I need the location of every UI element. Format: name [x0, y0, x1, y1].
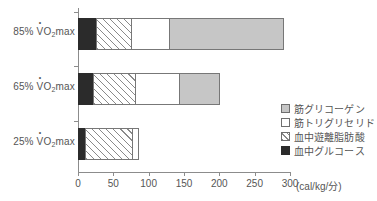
category-65-max: max	[56, 81, 76, 92]
plot-area: 050100150200250300 (cal/kg/分)	[78, 8, 290, 172]
bar-segment-glycogen	[179, 73, 220, 105]
x-axis-tick-label: 0	[75, 178, 81, 189]
x-axis-unit-label: (cal/kg/分)	[296, 178, 342, 193]
category-25-percent-sign: %	[24, 136, 33, 147]
category-25-percent: 25	[13, 136, 24, 147]
legend-swatch-glucose-icon	[281, 146, 290, 155]
y-axis-tick	[74, 12, 78, 13]
category-65-percent: 65	[13, 81, 24, 92]
category-85-percent: 85	[13, 26, 24, 37]
x-axis-tick	[78, 172, 79, 176]
x-axis-tick	[149, 172, 150, 176]
bar-segment-trigly	[135, 73, 181, 105]
legend-label: 血中グルコース	[294, 143, 365, 158]
legend-label: 筋トリグリセリド	[294, 115, 375, 130]
bar-segment-glucose	[78, 18, 97, 50]
bar-25	[78, 128, 138, 160]
category-25-max: max	[56, 136, 76, 147]
category-65-v: V	[37, 81, 44, 92]
legend-swatch-ffa-icon	[281, 132, 290, 141]
y-axis-tick	[74, 121, 78, 122]
x-axis-tick-label: 100	[140, 178, 157, 189]
x-axis-tick	[184, 172, 185, 176]
bar-segment-ffa	[93, 73, 136, 105]
category-85-max: max	[56, 26, 76, 37]
category-label-25: 25% VO2max	[0, 136, 75, 148]
legend-swatch-trigly-icon	[281, 118, 290, 127]
legend-item-glucose: 血中グルコース	[281, 143, 375, 157]
vdot-icon: V	[37, 136, 44, 147]
stacked-bar-chart: 85% VO2max 65% VO2max 25% VO2max 0501001…	[0, 0, 377, 201]
x-axis-tick-label: 200	[211, 178, 228, 189]
category-65-percent-sign: %	[24, 81, 33, 92]
vdot-icon: V	[37, 26, 44, 37]
legend-item-glycogen: 筋グリコーゲン	[281, 101, 375, 115]
x-axis-tick	[255, 172, 256, 176]
bar-segment-trigly	[131, 18, 170, 50]
bar-segment-ffa	[85, 128, 133, 160]
x-axis-tick	[113, 172, 114, 176]
bar-segment-trigly	[132, 128, 139, 160]
bar-65	[78, 73, 219, 105]
x-axis-tick-label: 250	[246, 178, 263, 189]
x-axis-tick-label: 150	[176, 178, 193, 189]
legend-item-trigly: 筋トリグリセリド	[281, 115, 375, 129]
bar-85	[78, 18, 283, 50]
legend-item-ffa: 血中遊離脂肪酸	[281, 129, 375, 143]
x-axis-tick	[219, 172, 220, 176]
category-85-percent-sign: %	[24, 26, 33, 37]
bar-segment-glycogen	[169, 18, 284, 50]
y-axis-tick	[74, 66, 78, 67]
legend: 筋グリコーゲン筋トリグリセリド血中遊離脂肪酸血中グルコース	[281, 101, 375, 157]
bar-segment-ffa	[96, 18, 132, 50]
bar-segment-glucose	[78, 73, 94, 105]
legend-label: 筋グリコーゲン	[294, 101, 365, 116]
x-axis-tick-label: 50	[108, 178, 119, 189]
legend-swatch-glycogen-icon	[281, 104, 290, 113]
category-85-v: V	[37, 26, 44, 37]
category-label-85: 85% VO2max	[0, 26, 75, 38]
vdot-icon: V	[37, 81, 44, 92]
legend-label: 血中遊離脂肪酸	[294, 129, 365, 144]
category-25-v: V	[37, 136, 44, 147]
x-axis-tick	[290, 172, 291, 176]
category-label-65: 65% VO2max	[0, 81, 75, 93]
